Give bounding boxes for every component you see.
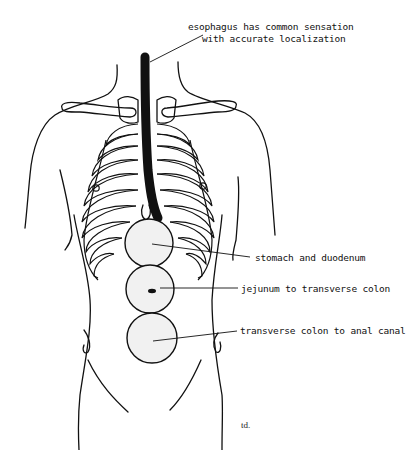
jejunum-circle [126,265,174,313]
xiphoid [142,205,151,220]
diagram-canvas: esophagus has common sensation with accu… [0,0,412,450]
esophagus-tube [145,57,158,218]
arm-left-inner [60,170,72,250]
stomach-circle [125,219,173,267]
colon-circle [127,313,177,363]
neck-left-outline [25,65,117,228]
label-esophagus-line2: with accurate localization [202,33,346,44]
label-colon: transverse colon to anal canal [240,325,406,336]
arm-right-inner [233,177,239,260]
label-stomach: stomach and duodenum [255,252,365,263]
groin-right [170,360,201,410]
clavicle-right [162,101,237,117]
clavicle-left [62,102,136,117]
umbilicus [148,289,156,293]
label-esophagus-line1: esophagus has common sensation [188,21,354,32]
label-jejunum: jejunum to transverse colon [241,283,390,294]
torso-illustration [0,0,412,450]
sternum-manubrium-r [157,97,176,124]
leader-esophagus [150,35,203,62]
artist-signature: td. [241,420,250,430]
groin-left [88,360,128,412]
